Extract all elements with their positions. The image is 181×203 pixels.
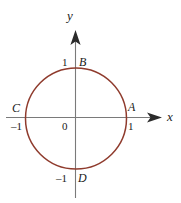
point-label-c: C (12, 102, 20, 114)
y-tick-label-positive-one: 1 (62, 57, 68, 68)
unit-circle-figure: y x 1 B C –1 A 1 0 –1 D (0, 0, 181, 203)
y-axis-label: y (67, 9, 73, 22)
x-axis-label: x (167, 110, 173, 123)
point-label-b: B (79, 56, 86, 68)
x-tick-label-negative-one: –1 (11, 121, 22, 132)
point-label-a: A (128, 101, 135, 113)
origin-label: 0 (62, 121, 68, 132)
figure-canvas (0, 0, 181, 203)
x-tick-label-positive-one: 1 (128, 121, 134, 132)
y-tick-label-negative-one: –1 (56, 173, 67, 184)
point-label-d: D (78, 172, 87, 184)
